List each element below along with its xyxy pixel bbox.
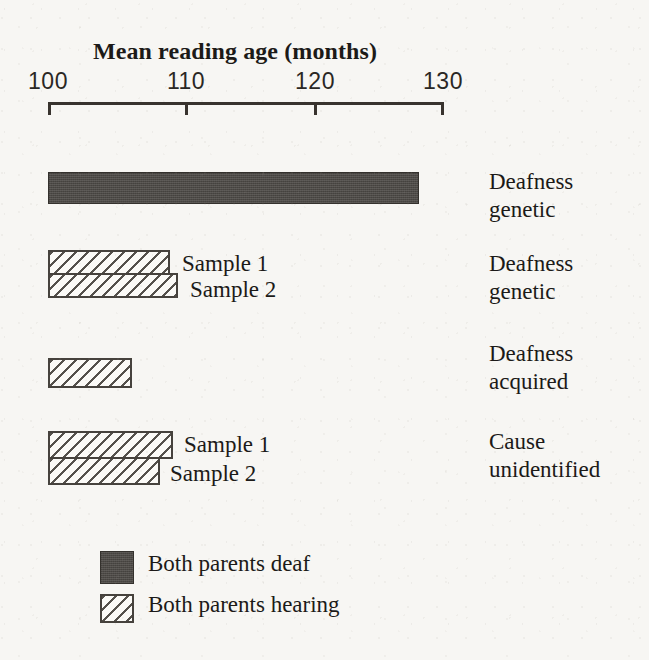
x-tick-label-100: 100 bbox=[28, 68, 68, 95]
x-axis-tick-120 bbox=[314, 102, 317, 115]
x-tick-label-110: 110 bbox=[167, 68, 205, 95]
legend-swatch-both-parents-deaf bbox=[100, 551, 134, 584]
category-label-line2: genetic bbox=[489, 196, 573, 224]
paper-grain-overlay bbox=[0, 0, 649, 660]
category-label-line1: Deafness bbox=[489, 168, 573, 196]
category-label-deafness-genetic-deaf: Deafness genetic bbox=[489, 168, 573, 224]
x-axis-tick-100 bbox=[48, 102, 51, 115]
x-axis-tick-110 bbox=[185, 102, 188, 115]
x-tick-label-120: 120 bbox=[295, 68, 335, 95]
category-label-deafness-acquired: Deafness acquired bbox=[489, 340, 573, 396]
legend-swatch-both-parents-hearing bbox=[100, 594, 134, 623]
category-label-line2: unidentified bbox=[489, 456, 600, 484]
bar-cause-unidentified-hearing-sample-1 bbox=[48, 431, 173, 459]
legend-label-both-parents-hearing: Both parents hearing bbox=[148, 592, 340, 618]
bar-cause-unidentified-hearing-sample-2 bbox=[48, 457, 160, 485]
category-label-deafness-genetic-hearing: Deafness genetic bbox=[489, 250, 573, 306]
category-label-line1: Deafness bbox=[489, 340, 573, 368]
x-axis-tick-130 bbox=[441, 102, 444, 115]
bar-deafness-genetic-hearing-sample-2 bbox=[48, 273, 178, 298]
category-label-cause-unidentified: Cause unidentified bbox=[489, 428, 600, 484]
chart-axis-title: Mean reading age (months) bbox=[0, 38, 470, 65]
legend-label-both-parents-deaf: Both parents deaf bbox=[148, 551, 310, 577]
reading-age-bar-chart: Mean reading age (months) 100 110 120 13… bbox=[0, 0, 649, 660]
category-label-line2: genetic bbox=[489, 278, 573, 306]
bar-deafness-acquired-hearing bbox=[48, 358, 132, 388]
category-label-line2: acquired bbox=[489, 368, 573, 396]
x-tick-label-130: 130 bbox=[423, 68, 463, 95]
sample-label-group2-sample-2: Sample 2 bbox=[190, 277, 276, 303]
bar-deafness-genetic-both-parents-deaf bbox=[48, 172, 419, 204]
sample-label-group4-sample-1: Sample 1 bbox=[184, 432, 270, 458]
category-label-line1: Cause bbox=[489, 428, 600, 456]
sample-label-group2-sample-1: Sample 1 bbox=[182, 251, 268, 277]
bar-deafness-genetic-hearing-sample-1 bbox=[48, 250, 170, 275]
x-axis-line bbox=[48, 102, 443, 105]
sample-label-group4-sample-2: Sample 2 bbox=[170, 461, 256, 487]
category-label-line1: Deafness bbox=[489, 250, 573, 278]
